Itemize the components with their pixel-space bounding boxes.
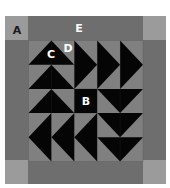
label-c: C — [47, 49, 55, 60]
quilt-diagram: A E C D B — [0, 0, 170, 188]
label-d: D — [63, 43, 72, 54]
corner-square-bottom-right — [143, 160, 166, 184]
label-a: A — [13, 25, 22, 36]
label-b: B — [82, 96, 90, 107]
label-e: E — [75, 23, 83, 34]
corner-square-top-right — [143, 16, 166, 40]
corner-square-bottom-left — [5, 160, 28, 184]
